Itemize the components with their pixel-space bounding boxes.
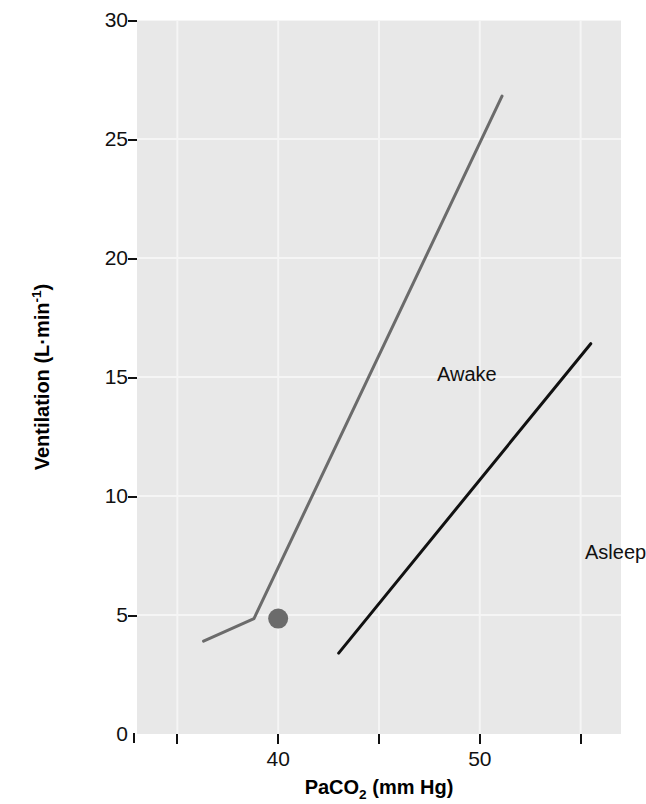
y-tick-mark-5 bbox=[128, 615, 137, 617]
y-tick-label-text: 25 bbox=[92, 128, 128, 149]
y-tick-label-text: 30 bbox=[92, 9, 128, 30]
y-tick-label-text: 10 bbox=[92, 485, 128, 506]
y-axis-title: Ventilation (L·min-1) bbox=[22, 20, 52, 734]
asleep-label: Asleep bbox=[585, 542, 646, 562]
x-tick-mark-45 bbox=[378, 734, 380, 744]
series-lines bbox=[204, 96, 591, 653]
y-tick-label-5: 5 bbox=[92, 604, 128, 626]
y-tick-mark-0 bbox=[133, 733, 135, 743]
y-axis-title-middot: · bbox=[31, 338, 53, 345]
y-tick-label-30: 30 bbox=[92, 9, 128, 31]
y-tick-label-25: 25 bbox=[92, 128, 128, 150]
x-axis-title: PaCO2 (mm Hg) bbox=[137, 775, 621, 804]
y-axis-title-unit: min bbox=[31, 302, 53, 338]
series-markers bbox=[268, 609, 288, 629]
y-tick-label-text: 0 bbox=[92, 723, 128, 744]
y-tick-mark-30 bbox=[128, 20, 137, 22]
awake-label: Awake bbox=[437, 364, 497, 384]
x-axis-title-sub: 2 bbox=[359, 787, 367, 802]
x-axis-title-pre: PaCO bbox=[305, 776, 359, 798]
x-tick-mark-50 bbox=[479, 734, 481, 744]
series-line-asleep bbox=[339, 344, 591, 653]
y-tick-mark-25 bbox=[128, 139, 137, 141]
x-tick-mark-35 bbox=[176, 734, 178, 744]
y-axis-title-close: ) bbox=[31, 284, 53, 291]
y-tick-label-text: 15 bbox=[92, 366, 128, 387]
y-tick-label-15: 15 bbox=[92, 366, 128, 388]
y-tick-label-text: 20 bbox=[92, 247, 128, 268]
y-axis-title-main: Ventilation (L bbox=[31, 345, 53, 471]
resting-point-marker bbox=[268, 609, 288, 629]
y-axis-title-exponent: -1 bbox=[29, 290, 44, 302]
y-tick-label-20: 20 bbox=[92, 247, 128, 269]
y-tick-mark-20 bbox=[128, 258, 137, 260]
x-tick-label-50: 50 bbox=[450, 748, 510, 769]
y-tick-mark-10 bbox=[128, 496, 137, 498]
x-axis-title-post: (mm Hg) bbox=[367, 776, 454, 798]
x-tick-label-40: 40 bbox=[248, 748, 308, 769]
y-tick-label-0: 0 bbox=[92, 723, 128, 745]
x-tick-mark-55 bbox=[580, 734, 582, 744]
gridlines bbox=[137, 20, 621, 734]
plot-canvas bbox=[137, 20, 621, 734]
plot-area: Awake Asleep bbox=[137, 20, 621, 734]
x-tick-mark-40 bbox=[277, 734, 279, 744]
y-tick-label-text: 5 bbox=[92, 604, 128, 625]
y-tick-mark-15 bbox=[128, 377, 137, 379]
y-tick-label-10: 10 bbox=[92, 485, 128, 507]
